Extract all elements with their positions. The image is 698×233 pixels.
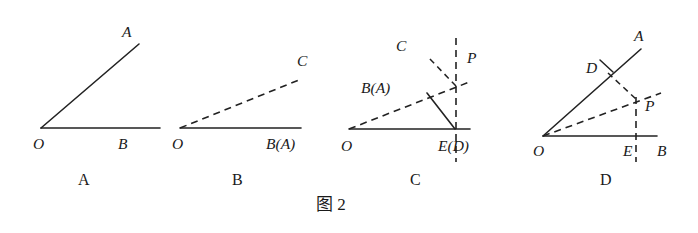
panel-label-a: A <box>78 172 90 188</box>
panel-a-point-label-A: A <box>122 24 131 40</box>
panel-a-point-label-O: O <box>33 136 44 152</box>
panel-c-point-label-C: C <box>396 38 406 54</box>
panel-a-geometry <box>41 44 160 128</box>
panel-c-point-label-BA: B(A) <box>361 80 390 96</box>
panel-a-point-label-B: B <box>118 136 127 152</box>
panel-c-ray-PC <box>428 57 456 86</box>
panel-c-point-label-ED: E(D) <box>438 138 469 154</box>
panel-b-point-label-BA: B(A) <box>266 136 295 152</box>
panel-d-point-label-P: P <box>645 98 654 114</box>
panel-label-c: C <box>410 172 421 188</box>
figure-geometry-canvas <box>0 0 698 233</box>
panel-d-point-label-B: B <box>657 143 666 159</box>
panel-d-point-label-A: A <box>634 28 643 44</box>
panel-d-point-label-O: O <box>533 143 544 159</box>
panel-c-point-label-O: O <box>341 138 352 154</box>
panel-c-point-label-P: P <box>467 50 476 66</box>
panel-c-segment-EF <box>427 93 455 129</box>
panel-b-geometry <box>180 80 301 128</box>
panel-b-point-label-C: C <box>297 53 307 69</box>
figure-caption: 图 2 <box>316 196 346 213</box>
panel-b-point-label-O: O <box>172 136 183 152</box>
panel-d-segment-DP <box>608 73 637 100</box>
panel-d-tick-at-D <box>600 60 613 72</box>
panel-d-geometry <box>543 49 661 162</box>
panel-a-ray-OA <box>41 44 139 128</box>
panel-d-point-label-E: E <box>623 143 632 159</box>
panel-label-d: D <box>600 172 612 188</box>
panel-b-ray-OC <box>180 80 299 128</box>
panel-d-point-label-D: D <box>586 60 597 76</box>
figure-root: A O B A C O B(A) B C P B(A) O E(D) C A D… <box>0 0 698 233</box>
panel-label-b: B <box>232 172 243 188</box>
panel-d-ray-OP <box>543 93 661 136</box>
